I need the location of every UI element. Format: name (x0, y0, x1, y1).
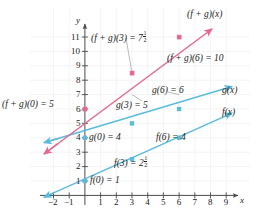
x-tick-label-6: 6 (177, 198, 182, 207)
annotation-fg-0: (f + g)(0) = 5 (2, 100, 54, 110)
x-tick-label-4: 4 (145, 198, 150, 207)
point-g-3 (130, 121, 134, 125)
point-g-6 (177, 107, 181, 111)
y-tick-label-8: 8 (76, 76, 81, 85)
x-tick-label-9: 9 (224, 198, 229, 207)
y-axis-label: y (76, 16, 80, 25)
x-tick-label-1: 1 (98, 198, 103, 207)
curve-label-f: f(x) (222, 108, 235, 118)
x-tick-label-2: 2 (114, 198, 119, 207)
x-tick-label-neg1: −1 (64, 198, 74, 207)
point-fg-3 (130, 71, 135, 76)
x-tick-label-8: 8 (208, 198, 213, 207)
annotation-fg-3-fraction: 12 (143, 30, 146, 44)
annotation-f-0: f(0) = 1 (90, 176, 120, 186)
x-axis-label: x (240, 196, 244, 205)
y-tick-label-11: 11 (71, 33, 80, 42)
y-tick-label-4: 4 (76, 133, 81, 142)
annotation-f-3-fraction: 12 (144, 155, 147, 169)
x-tick-label-7: 7 (192, 198, 197, 207)
annotation-fg-6: (f + g)(6) = 10 (167, 54, 224, 64)
annotation-f-3-text: f(3) = 2 (114, 158, 144, 168)
y-tick-label-9: 9 (76, 61, 81, 70)
figure-coordinate-plane: y x 11 10 9 8 7 6 5 4 3 2 1 −2 −1 1 2 3 … (0, 0, 259, 213)
annotation-g-6: g(6) = 6 (152, 86, 184, 96)
x-tick-label-neg2: −2 (48, 198, 58, 207)
annotation-fg-3: (f + g)(3) = 712 (91, 30, 146, 44)
point-f-0 (83, 179, 87, 183)
x-tick-label-5: 5 (161, 198, 166, 207)
annotation-f-6: f(6) = 4 (156, 133, 186, 143)
y-tick-label-10: 10 (71, 47, 80, 56)
y-tick-label-2: 2 (76, 162, 81, 171)
point-fg-6 (177, 35, 182, 40)
point-g-0 (83, 136, 87, 140)
y-tick-label-1: 1 (76, 177, 81, 186)
annotation-f-3: f(3) = 212 (114, 155, 147, 169)
point-fg-0 (83, 107, 88, 112)
curve-label-f-plus-g: (f + g)(x) (187, 10, 222, 20)
x-tick-label-3: 3 (130, 198, 135, 207)
curve-label-g: g(x) (222, 86, 237, 96)
y-tick-label-6: 6 (76, 105, 81, 114)
annotation-fg-3-text: (f + g)(3) = 7 (91, 33, 143, 43)
y-tick-label-7: 7 (76, 90, 81, 99)
y-tick-label-5: 5 (76, 119, 81, 128)
annotation-g-0: g(0) = 4 (89, 133, 121, 143)
y-tick-label-3: 3 (76, 148, 81, 157)
annotation-g-3: g(3) = 5 (116, 101, 148, 111)
